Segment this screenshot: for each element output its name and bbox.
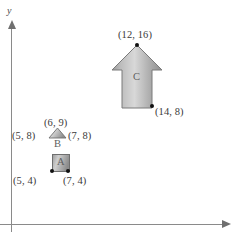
coord-label-12-16: (12, 16) <box>118 29 152 40</box>
y-axis <box>11 26 12 232</box>
vertex-dot-14-8 <box>150 104 154 108</box>
coordinate-plane-figure: y C (12, 16) (14, 8) B (6, <box>0 0 231 242</box>
x-axis <box>0 224 224 225</box>
shape-a-letter: A <box>57 156 65 167</box>
vertex-dot-7-4 <box>66 169 70 173</box>
coord-label-14-8: (14, 8) <box>155 106 184 117</box>
coord-label-7-4: (7, 4) <box>63 175 86 186</box>
coord-label-5-4: (5, 4) <box>13 175 36 186</box>
arrow-up-icon <box>8 20 16 29</box>
vertex-dot-5-4 <box>50 169 54 173</box>
coord-label-6-9: (6, 9) <box>44 117 67 128</box>
coord-label-7-8: (7, 8) <box>68 130 91 141</box>
y-axis-label: y <box>7 5 11 16</box>
arrow-right-icon <box>222 220 231 228</box>
vertex-dot-12-16 <box>135 43 139 47</box>
shape-c-letter: C <box>133 71 140 82</box>
shape-b-letter: B <box>54 138 61 149</box>
coord-label-5-8: (5, 8) <box>12 130 35 141</box>
